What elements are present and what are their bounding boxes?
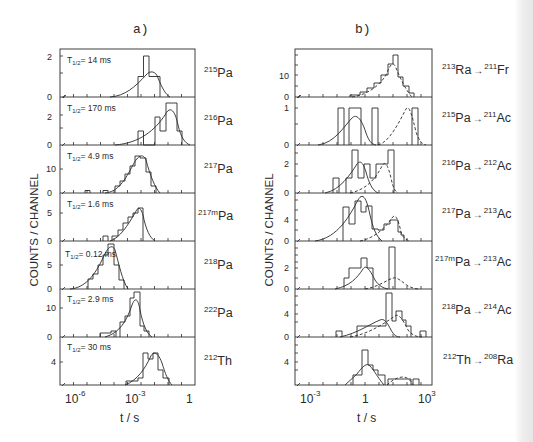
a-x-axis-label: t / s [120, 411, 139, 425]
a2-ytick-lo: 0 [47, 140, 52, 150]
a4-ytick-lo: 0 [47, 236, 52, 246]
hist-217pa [85, 156, 160, 193]
hist-216pa-212ac [325, 150, 398, 193]
a-xtick-1: 1 [186, 392, 193, 406]
a5-ytick-lo: 0 [47, 284, 52, 294]
nuclide-222pa: 222Pa [204, 305, 233, 320]
hist-218pa-214ac [336, 293, 426, 337]
decay-212th-208ra: 212Th→208Ra [443, 352, 513, 367]
halflife-216pa: T1/2= 170 ms [67, 103, 116, 114]
halflife-218pa: T1/2= 0.12 ms [65, 249, 116, 260]
decay-217mpa-213ac: 217mPa→213Ac [435, 254, 511, 269]
decay-217pa-213ac: 217Pa→213Ac [442, 206, 512, 221]
hist-217mpa-213ac [335, 247, 420, 289]
hist-212th [125, 353, 172, 385]
y-axis-label-b: COUNTS / CHANNEL [263, 173, 275, 287]
b4-ytick-hi: 4 [284, 215, 289, 225]
hist-213ra-211fr [350, 55, 414, 97]
b3-ytick-hi: 2 [284, 159, 289, 169]
a7-ytick-hi: 4 [51, 357, 56, 367]
a1-ytick-hi: 2 [47, 52, 52, 62]
b-xtick-1e-3: 10-3 [300, 389, 321, 406]
halflife-217mpa: T1/2= 1.6 ms [67, 199, 113, 210]
b1-ytick-hi: 10 [279, 71, 289, 81]
panel-b-title: b) [355, 22, 371, 37]
a-xtick-1e-6: 10-6 [65, 389, 86, 406]
panel-a-plot [60, 49, 195, 386]
hist-217mpa [103, 208, 155, 241]
b6-ytick-lo: 0 [284, 332, 289, 342]
b-xtick-1: 1 [362, 392, 369, 406]
b7-ytick-hi: 4 [284, 357, 289, 367]
a5-ytick-hi: 5 [47, 260, 52, 270]
decay-218pa-214ac: 218Pa→214Ac [442, 302, 512, 317]
a1-ytick-lo: 0 [47, 92, 52, 102]
b4-ytick-lo: 0 [284, 236, 289, 246]
nuclide-217pa: 217Pa [204, 161, 233, 176]
nuclide-217mpa: 217mPa [198, 208, 233, 223]
a3-ytick-hi: 10 [46, 164, 56, 174]
decay-213ra-211fr: 213Ra→211Fr [442, 62, 509, 77]
nuclide-212th: 212Th [204, 353, 232, 368]
a2-ytick-hi: 2 [47, 112, 52, 122]
hist-217pa-213ac [315, 196, 410, 241]
y-axis-label-a: COUNTS / CHANNEL [28, 173, 40, 287]
halflife-215pa: T1/2= 14 ms [67, 55, 111, 66]
decay-216pa-212ac: 216Pa→212Ac [442, 158, 512, 173]
b6-ytick-hi: 4 [284, 309, 289, 319]
b1-ytick-lo: 0 [284, 92, 289, 102]
a4-ytick-hi: 5 [47, 208, 52, 218]
panel-a-halflives: T1/2= 14 ms T1/2= 170 ms T1/2= 4.9 ms T1… [65, 55, 116, 353]
a6-ytick-hi: 10 [46, 303, 56, 313]
b3-ytick-lo: 0 [284, 188, 289, 198]
b5-ytick-lo: 0 [284, 284, 289, 294]
panel-b-plot [295, 49, 432, 386]
b-xtick-1e3: 103 [418, 389, 436, 406]
a6-ytick-lo: 0 [47, 332, 52, 342]
hist-215pa [110, 56, 170, 97]
nuclide-216pa: 216Pa [204, 113, 233, 128]
b5-ytick-hi: 2 [284, 263, 289, 273]
b-x-axis-label: t / s [357, 411, 376, 425]
panel-a-title: a) [133, 22, 149, 37]
halflife-212th: T1/2= 30 ms [67, 342, 111, 353]
decay-215pa-211ac: 215Pa→211Ac [442, 110, 511, 125]
nuclide-215pa: 215Pa [204, 65, 233, 80]
a-xtick-1e-3: 10-3 [125, 389, 146, 406]
b2-ytick-hi: 1 [284, 103, 289, 113]
b2-ytick-lo: 0 [284, 140, 289, 150]
figure-canvas: a) b) COUNTS / CHANNEL COUNTS / CHANNEL [0, 0, 533, 442]
a3-ytick-lo: 0 [47, 188, 52, 198]
hist-212th-208ra [345, 350, 419, 385]
halflife-222pa: T1/2= 2.9 ms [67, 294, 113, 305]
nuclide-218pa: 218Pa [204, 257, 233, 272]
halflife-217pa: T1/2= 4.9 ms [67, 151, 113, 162]
hist-215pa-211ac [318, 108, 426, 145]
hist-216pa [115, 103, 190, 145]
